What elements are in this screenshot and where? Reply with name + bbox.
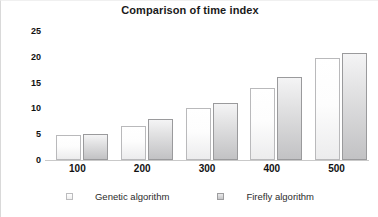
bar-400-series-0 (250, 88, 275, 160)
legend-item[interactable]: Firefly algorithm (217, 191, 314, 202)
bar-group (250, 31, 303, 160)
bar-200-series-0 (121, 126, 146, 160)
bar-400-series-1 (277, 77, 302, 160)
bar-chart: Comparison of time index 0510152025 1002… (0, 0, 378, 217)
x-axis-tick-label: 300 (175, 163, 240, 174)
bar-group (56, 31, 109, 160)
bar-200-series-1 (148, 119, 173, 160)
legend-label: Firefly algorithm (246, 191, 314, 202)
x-axis: 100200300400500 (45, 163, 369, 181)
x-axis-tick-label: 400 (239, 163, 304, 174)
bar-300-series-0 (186, 108, 211, 160)
bars-layer (45, 31, 369, 160)
y-axis-tick-label: 15 (1, 78, 41, 88)
x-axis-tick-label: 200 (110, 163, 175, 174)
x-axis-tick-label: 500 (304, 163, 369, 174)
y-axis-tick-label: 0 (1, 155, 41, 165)
legend-label: Genetic algorithm (95, 191, 169, 202)
bar-group (121, 31, 174, 160)
chart-legend: Genetic algorithmFirefly algorithm (1, 191, 378, 202)
y-axis-tick-label: 20 (1, 52, 41, 62)
bar-100-series-1 (83, 134, 108, 160)
y-axis-tick-label: 25 (1, 26, 41, 36)
y-axis-tick-label: 5 (1, 129, 41, 139)
legend-item[interactable]: Genetic algorithm (66, 191, 169, 202)
bar-500-series-1 (342, 53, 367, 160)
legend-swatch-icon (66, 193, 73, 200)
bar-group (186, 31, 239, 160)
bar-500-series-0 (315, 58, 340, 160)
chart-title: Comparison of time index (1, 4, 378, 16)
y-axis-tick-label: 10 (1, 103, 41, 113)
bar-group (315, 31, 368, 160)
x-axis-line (45, 160, 369, 161)
bar-100-series-0 (56, 135, 81, 160)
y-axis: 0510152025 (1, 31, 41, 160)
bar-300-series-1 (213, 103, 238, 160)
x-axis-tick-label: 100 (45, 163, 110, 174)
legend-swatch-icon (217, 193, 224, 200)
